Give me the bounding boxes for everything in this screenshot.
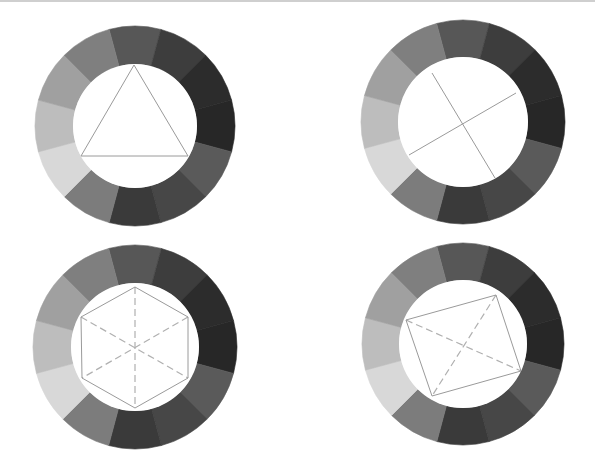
- wheel-center-hole: [398, 57, 528, 187]
- triad-wheel: [35, 26, 235, 226]
- wheel-center-hole: [399, 280, 527, 408]
- hexad-wheel: [33, 245, 237, 449]
- wheel-center-hole: [73, 64, 197, 188]
- tetrad-wheel: [362, 243, 564, 445]
- complementary-pairs-wheel: [361, 20, 565, 224]
- color-wheels-figure: [0, 0, 595, 462]
